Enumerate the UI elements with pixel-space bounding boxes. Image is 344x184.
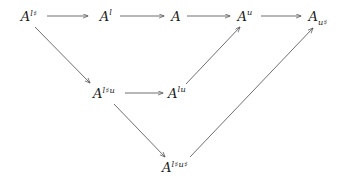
node-superscript: l bbox=[109, 7, 112, 17]
node-base: A bbox=[168, 86, 178, 101]
node-superscript: lu bbox=[178, 84, 187, 94]
node-A_lu: Alu bbox=[168, 87, 186, 100]
node-A: A bbox=[171, 10, 181, 23]
node-base: A bbox=[171, 9, 181, 24]
node-base: A bbox=[100, 9, 110, 24]
node-subscript: u♯ bbox=[318, 16, 328, 26]
node-base: A bbox=[93, 86, 103, 101]
commutative-diagram: Al♯AlAAuAu♯Al♯uAluAl♯u♯ bbox=[0, 0, 344, 184]
node-superscript: l♯u♯ bbox=[172, 158, 188, 168]
node-superscript: l♯u bbox=[103, 84, 115, 94]
arrow-lsharp-to-lsharpu bbox=[35, 27, 90, 83]
node-A_lsharp: Al♯ bbox=[21, 10, 38, 23]
node-A_lsharpusharp: Al♯u♯ bbox=[162, 161, 188, 174]
node-base: A bbox=[237, 9, 247, 24]
node-superscript: l♯ bbox=[30, 7, 37, 17]
node-A_u: Au bbox=[237, 10, 252, 23]
node-base: A bbox=[162, 160, 172, 175]
node-base: A bbox=[21, 9, 31, 24]
arrow-lsharpu-to-lsharpusharp bbox=[114, 104, 165, 157]
node-A_l: Al bbox=[100, 10, 113, 23]
node-base: A bbox=[308, 9, 318, 24]
node-superscript: u bbox=[247, 7, 253, 17]
arrow-lsharpu-to-u bbox=[186, 27, 240, 84]
arrow-lsharpusharp-to-subusharp bbox=[190, 28, 313, 157]
node-A_lsharpu: Al♯u bbox=[93, 87, 115, 100]
node-A_sub_usharp: Au♯ bbox=[308, 10, 327, 23]
